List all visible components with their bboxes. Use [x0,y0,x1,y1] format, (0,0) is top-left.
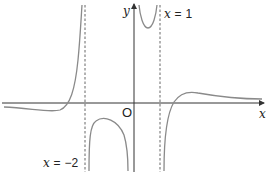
y-axis-label: y [123,5,130,17]
curve-middle-lower-branch [89,119,128,171]
asymptote-label-x-1: x = 1 [164,8,192,20]
curve-right-branch [164,92,262,171]
curve-middle-upper-branch [139,5,157,28]
origin-label: O [122,106,132,119]
curve-left-branch [4,5,82,111]
graph-canvas [0,0,267,174]
x-axis-label: x [259,108,266,120]
function-graph: y x O x = 1 x = −2 [0,0,267,174]
asymptote-label-x-minus-2: x = −2 [43,157,78,169]
